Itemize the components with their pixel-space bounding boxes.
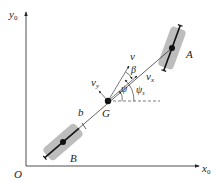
velocity-vy-label: vy — [91, 76, 100, 90]
velocity-vx-label: vx — [146, 70, 155, 84]
point-a-label: A — [185, 48, 193, 60]
origin-label: O — [14, 168, 22, 180]
bicycle-model-diagram: y0 x0 O b A B G v vx vy β ψ ψs — [0, 0, 217, 182]
velocity-vector-vy — [99, 91, 108, 101]
beta-angle-label: β — [130, 64, 136, 75]
y-axis-label: y0 — [8, 8, 18, 22]
x-axis-label: x0 — [201, 162, 211, 176]
point-b — [60, 139, 66, 145]
point-b-label: B — [70, 152, 77, 164]
vehicle-body-line — [63, 48, 172, 142]
point-g-label: G — [102, 107, 110, 119]
velocity-v-label: v — [130, 50, 135, 62]
psi-angle-label: ψ — [121, 83, 128, 94]
point-a — [169, 45, 175, 51]
psi-s-angle-label: ψs — [136, 84, 145, 96]
dimension-b-label: b — [78, 106, 84, 118]
